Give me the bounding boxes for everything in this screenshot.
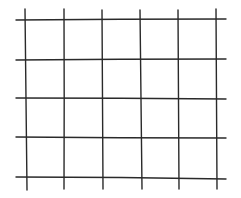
vertical-line-4 <box>140 10 142 189</box>
vertical-grid-lines <box>25 9 217 190</box>
horizontal-line-2 <box>16 59 226 60</box>
vertical-line-3 <box>102 10 103 189</box>
horizontal-line-3 <box>16 98 226 99</box>
hand-drawn-grid <box>0 0 241 198</box>
horizontal-line-5 <box>16 177 226 179</box>
horizontal-line-4 <box>16 137 226 138</box>
horizontal-line-1 <box>16 19 226 20</box>
vertical-line-5 <box>178 10 179 189</box>
vertical-line-1 <box>25 9 27 190</box>
horizontal-grid-lines <box>16 19 226 179</box>
